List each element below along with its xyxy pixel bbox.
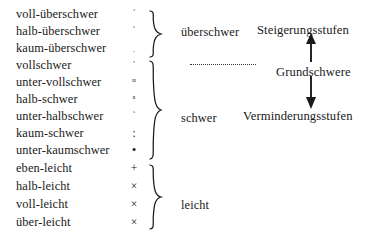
row-term: über-leicht	[16, 214, 71, 231]
row-term: vollschwer	[16, 57, 71, 74]
small-m-mark-icon: ᵚ	[126, 74, 142, 89]
brace-ueberschwer	[148, 10, 164, 58]
row-term: unter-vollschwer	[16, 74, 101, 91]
times-mark-icon: ×	[126, 196, 142, 213]
row-term: unter-kaumschwer	[16, 142, 110, 159]
acute-accent-mark-icon: ´	[126, 6, 142, 21]
row-term: voll-überschwer	[16, 6, 98, 23]
small-n-mark-icon: ⁿ	[126, 91, 142, 106]
group-label-leicht: leicht	[181, 197, 209, 213]
direction-arrows	[296, 30, 326, 115]
arrow-up-icon	[306, 33, 316, 62]
grave-accent-mark-icon: `	[126, 23, 142, 38]
row-term: halb-schwer	[16, 91, 78, 108]
scale-row: voll-überschwer ´	[0, 6, 385, 23]
colon-mark-icon: :	[126, 125, 142, 142]
scale-row: unter-kaumschwer •	[0, 142, 385, 159]
times-mark-icon: ×	[126, 178, 142, 195]
curly-brace-icon	[148, 164, 164, 230]
scale-row: über-leicht ×	[0, 214, 385, 231]
row-term: unter-halbschwer	[16, 108, 103, 125]
row-term: kaum-schwer	[16, 125, 84, 142]
small-grave-mark-icon: ˋ	[126, 108, 142, 123]
low-tick-mark-icon: ˌ	[126, 40, 142, 55]
bullet-mark-icon: •	[126, 142, 142, 158]
prime-mark-icon: ʹ	[126, 57, 142, 72]
row-term: voll-leicht	[16, 196, 68, 213]
scale-row: eben-leicht +	[0, 160, 385, 177]
arrow-down-icon	[306, 76, 316, 109]
scale-row: kaum-schwer :	[0, 125, 385, 142]
curly-brace-icon	[148, 10, 164, 58]
brace-leicht	[148, 164, 164, 230]
group-label-schwer: schwer	[181, 110, 217, 126]
degree-scale-figure: voll-überschwer ´ halb-überschwer ` kaum…	[0, 0, 385, 242]
dotted-connector	[190, 64, 256, 67]
group-label-ueberschwer: überschwer	[181, 24, 239, 40]
scale-row: halb-leicht ×	[0, 178, 385, 195]
row-term: halb-leicht	[16, 178, 70, 195]
row-term: kaum-überschwer	[16, 40, 106, 57]
row-term: eben-leicht	[16, 160, 72, 177]
row-term: halb-überschwer	[16, 23, 100, 40]
scale-row: halb-schwer ⁿ	[0, 91, 385, 108]
plus-mark-icon: +	[126, 160, 142, 177]
times-mark-icon: ×	[126, 214, 142, 231]
brace-schwer	[148, 60, 164, 160]
arrow-group-icon	[296, 30, 326, 115]
curly-brace-icon	[148, 60, 164, 160]
scale-row: kaum-überschwer ˌ	[0, 40, 385, 57]
